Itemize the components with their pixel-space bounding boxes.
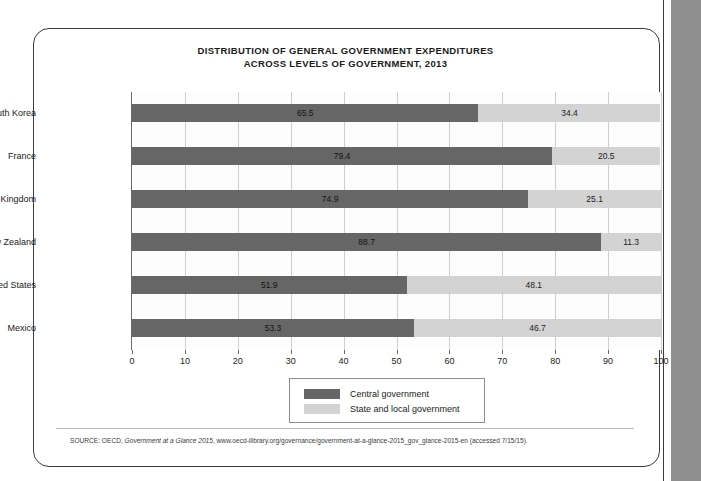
x-tick-mark xyxy=(132,350,133,354)
page-edge-line xyxy=(663,0,664,481)
plot-area: 65.534.479.420.574.925.188.711.351.948.1… xyxy=(132,92,661,350)
x-tick-mark xyxy=(291,350,292,354)
bar-value-label: 20.5 xyxy=(552,147,660,165)
bar-row: 74.925.1 xyxy=(132,178,661,221)
stacked-bar[interactable]: 88.711.3 xyxy=(132,233,661,251)
bar-value-label: 79.4 xyxy=(132,147,552,165)
bar-value-label: 53.3 xyxy=(132,319,414,337)
bar-value-label: 74.9 xyxy=(132,190,528,208)
x-tick-mark xyxy=(238,350,239,354)
stacked-bar[interactable]: 79.420.5 xyxy=(132,147,661,165)
x-tick-label: 100 xyxy=(653,356,668,366)
x-tick-label: 90 xyxy=(603,356,613,366)
bar-row: 65.534.4 xyxy=(132,92,661,135)
page-edge-band xyxy=(671,0,701,481)
bar-value-label: 34.4 xyxy=(478,104,660,122)
x-tick-label: 10 xyxy=(180,356,190,366)
bar-row: 51.948.1 xyxy=(132,264,661,307)
chart-title-line-2: ACROSS LEVELS OF GOVERNMENT, 2013 xyxy=(33,57,658,70)
bar-segment-central[interactable]: 79.4 xyxy=(132,147,552,165)
x-tick-mark xyxy=(555,350,556,354)
legend-swatch-central xyxy=(304,389,340,399)
bar-segment-central[interactable]: 51.9 xyxy=(132,276,407,294)
bar-segment-central[interactable]: 53.3 xyxy=(132,319,414,337)
source-title: Government at a Glance 2015 xyxy=(125,437,213,444)
category-label: France xyxy=(0,147,36,165)
bar-segment-central[interactable]: 88.7 xyxy=(132,233,601,251)
x-tick-label: 80 xyxy=(550,356,560,366)
chart-legend: Central government State and local gover… xyxy=(289,378,485,423)
bar-segment-state-local[interactable]: 34.4 xyxy=(478,104,660,122)
stacked-bar[interactable]: 74.925.1 xyxy=(132,190,661,208)
stacked-bar[interactable]: 51.948.1 xyxy=(132,276,661,294)
x-tick-label: 40 xyxy=(339,356,349,366)
bar-segment-state-local[interactable]: 48.1 xyxy=(407,276,661,294)
x-tick-mark xyxy=(344,350,345,354)
bar-value-label: 48.1 xyxy=(407,276,661,294)
gridline xyxy=(661,92,662,350)
bar-value-label: 46.7 xyxy=(414,319,661,337)
x-tick-mark xyxy=(397,350,398,354)
x-tick-label: 0 xyxy=(129,356,134,366)
source-prefix: SOURCE: OECD, xyxy=(70,437,125,444)
source-note: SOURCE: OECD, Government at a Glance 201… xyxy=(70,436,640,446)
category-label: South Korea xyxy=(0,104,36,122)
chart-title-line-1: DISTRIBUTION OF GENERAL GOVERNMENT EXPEN… xyxy=(33,44,658,57)
category-label: Mexico xyxy=(0,319,36,337)
bar-row: 79.420.5 xyxy=(132,135,661,178)
bar-segment-central[interactable]: 65.5 xyxy=(132,104,478,122)
bar-value-label: 25.1 xyxy=(528,190,661,208)
legend-swatch-state-local xyxy=(304,404,340,414)
legend-label-state-local: State and local government xyxy=(350,403,460,415)
x-tick-label: 60 xyxy=(444,356,454,366)
chart-title: DISTRIBUTION OF GENERAL GOVERNMENT EXPEN… xyxy=(33,44,658,70)
bar-segment-state-local[interactable]: 46.7 xyxy=(414,319,661,337)
bar-value-label: 88.7 xyxy=(132,233,601,251)
bar-row: 88.711.3 xyxy=(132,221,661,264)
page: DISTRIBUTION OF GENERAL GOVERNMENT EXPEN… xyxy=(0,0,701,481)
x-tick-mark xyxy=(661,350,662,354)
category-label: New Zealand xyxy=(0,233,36,251)
bar-segment-state-local[interactable]: 25.1 xyxy=(528,190,661,208)
x-tick-mark xyxy=(449,350,450,354)
x-tick-mark xyxy=(608,350,609,354)
stacked-bar[interactable]: 65.534.4 xyxy=(132,104,661,122)
category-label: United Kingdom xyxy=(0,190,36,208)
x-tick-label: 30 xyxy=(286,356,296,366)
bar-segment-central[interactable]: 74.9 xyxy=(132,190,528,208)
x-tick-mark xyxy=(502,350,503,354)
x-tick-label: 50 xyxy=(391,356,401,366)
category-label: United States xyxy=(0,276,36,294)
x-tick-label: 20 xyxy=(233,356,243,366)
bar-segment-state-local[interactable]: 20.5 xyxy=(552,147,660,165)
x-tick-label: 70 xyxy=(497,356,507,366)
bar-value-label: 11.3 xyxy=(601,233,661,251)
bar-value-label: 51.9 xyxy=(132,276,407,294)
bar-row: 53.346.7 xyxy=(132,307,661,350)
legend-label-central: Central government xyxy=(350,388,429,400)
source-rest: , www.oecd-ilibrary.org/governance/gover… xyxy=(213,437,528,444)
source-divider xyxy=(56,428,634,429)
stacked-bar[interactable]: 53.346.7 xyxy=(132,319,661,337)
bar-segment-state-local[interactable]: 11.3 xyxy=(601,233,661,251)
bar-value-label: 65.5 xyxy=(132,104,478,122)
x-tick-mark xyxy=(185,350,186,354)
